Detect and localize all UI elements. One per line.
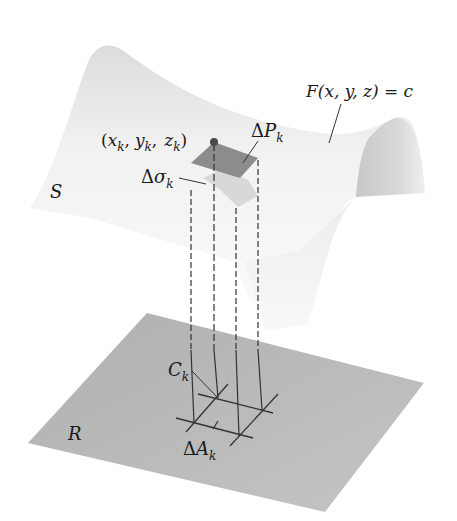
surface-s-label: S xyxy=(50,181,62,202)
point-xk-yk-zk-dot xyxy=(210,138,218,146)
region-r-plane xyxy=(28,313,424,512)
equation-label: F(x, y, z) = c xyxy=(305,81,414,101)
surface-fold xyxy=(356,118,425,197)
surface-integral-diagram: F(x, y, z) = c (xk,yk,zk) ΔPk Δσk S Ck R… xyxy=(0,0,457,521)
region-r-label: R xyxy=(67,423,82,444)
